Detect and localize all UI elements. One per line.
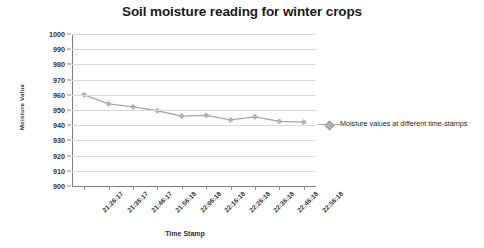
- y-axis-tick-mark: [67, 110, 71, 111]
- y-axis-tick-mark: [67, 94, 71, 95]
- x-axis-tick-mark: [206, 186, 207, 190]
- x-axis-tick-mark: [84, 186, 85, 190]
- data-point-marker: [204, 113, 209, 118]
- x-axis-tick-label: 21:46:17: [150, 190, 174, 214]
- gridline: [72, 156, 316, 157]
- x-axis-tick-mark: [231, 186, 232, 190]
- y-axis-tick-mark: [67, 125, 71, 126]
- x-axis-tick-label: 22:16:18: [223, 190, 247, 214]
- plot-area: 100099098097096095094093092091090021:26:…: [72, 34, 316, 186]
- chart-title: Soil moisture reading for winter crops: [0, 4, 484, 19]
- chart-legend: Moisture values at different time-stamps: [318, 118, 478, 129]
- data-point-marker: [106, 101, 111, 106]
- x-axis-tick-mark: [255, 186, 256, 190]
- data-point-marker: [228, 117, 233, 122]
- y-axis-tick-mark: [67, 186, 71, 187]
- y-axis-tick-label: 910: [53, 166, 65, 175]
- y-axis-tick-mark: [67, 64, 71, 65]
- y-axis-tick-label: 1000: [49, 30, 65, 39]
- series-line: [84, 95, 304, 122]
- gridline: [72, 125, 316, 126]
- x-axis-tick-label: 21:36:17: [125, 190, 149, 214]
- legend-entry-label: Moisture values at different time-stamps: [340, 118, 472, 129]
- plot-wrapper: 100099098097096095094093092091090021:26:…: [38, 30, 316, 190]
- data-point-marker: [301, 120, 306, 125]
- y-axis-title: Moisture Value: [18, 62, 25, 152]
- y-axis-tick-mark: [67, 155, 71, 156]
- gridline: [72, 171, 316, 172]
- legend-series-swatch: [318, 120, 340, 129]
- data-point-marker: [179, 113, 184, 118]
- gridline: [72, 49, 316, 50]
- y-axis-tick-label: 930: [53, 136, 65, 145]
- legend-marker-diamond-icon: [325, 120, 335, 130]
- y-axis-tick-mark: [67, 140, 71, 141]
- x-axis-tick-label: 21:56:18: [174, 190, 198, 214]
- y-axis-tick-label: 900: [53, 182, 65, 191]
- y-axis-tick-mark: [67, 49, 71, 50]
- gridline: [72, 64, 316, 65]
- y-axis-tick-label: 920: [53, 151, 65, 160]
- data-point-marker: [130, 104, 135, 109]
- y-axis-tick-label: 950: [53, 106, 65, 115]
- y-axis-tick-mark: [67, 79, 71, 80]
- x-axis-tick-mark: [304, 186, 305, 190]
- chart-container: Soil moisture reading for winter crops M…: [0, 0, 484, 248]
- x-axis-tick-label: 22:26:18: [247, 190, 271, 214]
- x-axis-tick-mark: [157, 186, 158, 190]
- x-axis-tick-mark: [133, 186, 134, 190]
- y-axis-tick-label: 980: [53, 60, 65, 69]
- x-axis-tick-label: 22:46:18: [296, 190, 320, 214]
- y-axis-tick-mark: [67, 34, 71, 35]
- x-axis-tick-mark: [279, 186, 280, 190]
- gridline: [72, 80, 316, 81]
- y-axis-tick-label: 940: [53, 121, 65, 130]
- x-axis-tick-label: 22:06:18: [199, 190, 223, 214]
- gridline: [72, 140, 316, 141]
- y-axis-tick-label: 990: [53, 45, 65, 54]
- y-axis-tick-label: 970: [53, 75, 65, 84]
- gridline: [72, 95, 316, 96]
- gridline: [72, 34, 316, 35]
- x-axis-title: Time Stamp: [60, 230, 310, 237]
- x-axis-tick-label: 21:26:17: [101, 190, 125, 214]
- data-point-marker: [277, 119, 282, 124]
- gridline: [72, 110, 316, 111]
- x-axis-tick-label: 22:56:18: [321, 190, 345, 214]
- x-axis-tick-mark: [109, 186, 110, 190]
- y-axis-tick-label: 960: [53, 90, 65, 99]
- x-axis-tick-mark: [182, 186, 183, 190]
- x-axis-tick-label: 22:36:18: [272, 190, 296, 214]
- y-axis-tick-mark: [67, 170, 71, 171]
- data-point-marker: [252, 114, 257, 119]
